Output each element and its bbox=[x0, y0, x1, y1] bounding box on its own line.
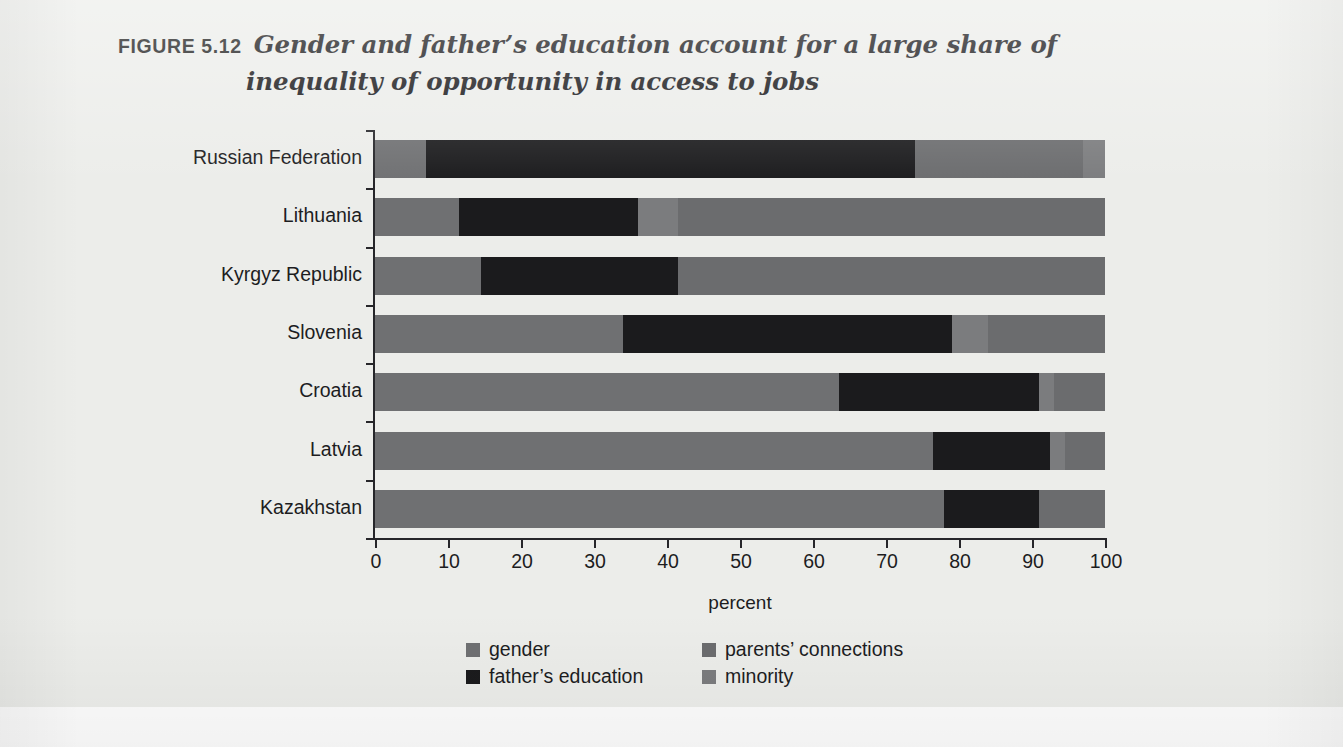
bar-segment bbox=[952, 315, 989, 353]
figure-title-line-2: inequality of opportunity in access to j… bbox=[118, 63, 1118, 100]
x-axis-tick-label: 90 bbox=[1022, 550, 1044, 573]
x-axis-tick-label: 100 bbox=[1090, 550, 1123, 573]
x-axis-tick-label: 50 bbox=[730, 550, 752, 573]
legend-item[interactable]: father’s education bbox=[466, 663, 643, 690]
x-axis-tick bbox=[448, 540, 450, 548]
figure-title-block: FIGURE 5.12Gender and father’s education… bbox=[118, 26, 1118, 100]
bar-segment bbox=[678, 198, 1105, 236]
legend-column-right: parents’ connectionsminority bbox=[702, 636, 903, 690]
legend-label: minority bbox=[725, 665, 793, 688]
bar-segment bbox=[944, 490, 1039, 528]
x-axis-tick bbox=[1105, 540, 1107, 548]
y-axis-label: Kazakhstan bbox=[260, 496, 362, 519]
legend-swatch-icon bbox=[702, 670, 716, 684]
bar-segment bbox=[1065, 432, 1105, 470]
figure-number-label: FIGURE 5.12 bbox=[118, 35, 242, 57]
x-axis-tick bbox=[521, 540, 523, 548]
bar-segment bbox=[933, 432, 1050, 470]
bar-segment bbox=[638, 198, 678, 236]
x-axis-tick-label: 30 bbox=[584, 550, 606, 573]
y-axis-tick bbox=[366, 247, 375, 249]
bar-segment bbox=[988, 315, 1105, 353]
bar-segment bbox=[375, 198, 459, 236]
y-axis-label: Kyrgyz Republic bbox=[221, 263, 362, 286]
x-axis-tick-label: 70 bbox=[876, 550, 898, 573]
bar-segment bbox=[426, 140, 915, 178]
x-axis-tick bbox=[594, 540, 596, 548]
y-axis-label: Croatia bbox=[299, 379, 362, 402]
y-axis-tick bbox=[366, 538, 375, 540]
legend-swatch-icon bbox=[466, 670, 480, 684]
y-axis-label: Latvia bbox=[310, 438, 362, 461]
bar-segment bbox=[375, 140, 426, 178]
legend-label: gender bbox=[489, 638, 550, 661]
bar-row bbox=[375, 490, 1105, 528]
x-axis-tick-label: 80 bbox=[949, 550, 971, 573]
bar-segment bbox=[915, 140, 1083, 178]
bar-segment bbox=[678, 257, 1105, 295]
y-axis-tick bbox=[366, 305, 375, 307]
x-axis-tick bbox=[813, 540, 815, 548]
x-axis-tick bbox=[1032, 540, 1034, 548]
legend-item[interactable]: minority bbox=[702, 663, 903, 690]
x-axis-tick bbox=[667, 540, 669, 548]
bar-segment bbox=[375, 257, 481, 295]
bar-row bbox=[375, 257, 1105, 295]
y-axis-tick bbox=[366, 363, 375, 365]
x-axis-tick bbox=[375, 540, 377, 548]
bar-row bbox=[375, 198, 1105, 236]
page-bottom-margin bbox=[0, 707, 1343, 747]
y-axis-label: Russian Federation bbox=[193, 146, 362, 169]
bar-segment bbox=[375, 315, 623, 353]
x-axis-tick bbox=[886, 540, 888, 548]
legend-swatch-icon bbox=[466, 643, 480, 657]
bar-segment bbox=[459, 198, 638, 236]
bar-segment bbox=[1054, 373, 1105, 411]
y-axis-tick bbox=[366, 421, 375, 423]
y-axis-label: Slovenia bbox=[287, 321, 362, 344]
bar-segment bbox=[1050, 432, 1065, 470]
legend-swatch-icon bbox=[702, 643, 716, 657]
figure-page: FIGURE 5.12Gender and father’s education… bbox=[0, 0, 1343, 747]
y-axis-label: Lithuania bbox=[283, 204, 362, 227]
legend-label: parents’ connections bbox=[725, 638, 903, 661]
x-axis-tick-label: 10 bbox=[438, 550, 460, 573]
bar-segment bbox=[375, 432, 933, 470]
legend-item[interactable]: gender bbox=[466, 636, 643, 663]
bar-row bbox=[375, 373, 1105, 411]
figure-title-line-1: FIGURE 5.12Gender and father’s education… bbox=[118, 26, 1118, 63]
bar-segment bbox=[623, 315, 952, 353]
x-axis-title: percent bbox=[375, 592, 1105, 614]
bar-segment bbox=[481, 257, 678, 295]
x-axis-tick-label: 20 bbox=[511, 550, 533, 573]
x-axis-tick-label: 40 bbox=[657, 550, 679, 573]
bar-segment bbox=[1039, 373, 1054, 411]
figure-caption-line-1: Gender and father’s education account fo… bbox=[254, 30, 1057, 59]
y-axis-tick bbox=[366, 130, 375, 132]
x-axis-tick bbox=[740, 540, 742, 548]
figure-caption-line-2: inequality of opportunity in access to j… bbox=[246, 67, 819, 96]
x-axis-tick-label: 60 bbox=[803, 550, 825, 573]
legend-item[interactable]: parents’ connections bbox=[702, 636, 903, 663]
x-axis-tick bbox=[959, 540, 961, 548]
bar-row bbox=[375, 140, 1105, 178]
legend-label: father’s education bbox=[489, 665, 643, 688]
bar-segment bbox=[375, 373, 839, 411]
bar-segment bbox=[1039, 490, 1105, 528]
bar-row bbox=[375, 315, 1105, 353]
bar-segment bbox=[839, 373, 1040, 411]
bar-segment bbox=[375, 490, 944, 528]
y-axis-tick bbox=[366, 188, 375, 190]
x-axis-tick-label: 0 bbox=[371, 550, 382, 573]
bar-row bbox=[375, 432, 1105, 470]
y-axis-labels: Russian FederationLithuaniaKyrgyz Republ… bbox=[122, 130, 362, 538]
legend-column-left: genderfather’s education bbox=[466, 636, 643, 690]
y-axis-tick bbox=[366, 480, 375, 482]
bar-segment bbox=[1083, 140, 1105, 178]
chart-plot-area: Russian FederationLithuaniaKyrgyz Republ… bbox=[375, 130, 1105, 538]
